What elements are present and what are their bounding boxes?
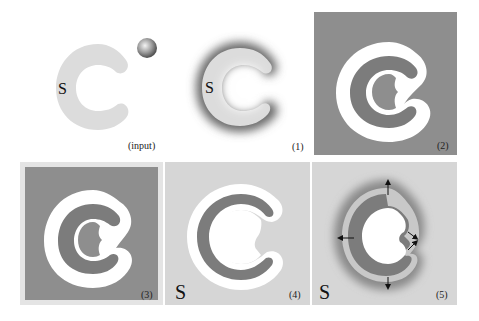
c-shape-blurred	[170, 10, 313, 155]
panel-3: (3)	[20, 162, 163, 305]
c-shape-evolving-front	[312, 162, 457, 305]
ball-icon	[137, 38, 157, 58]
c-shape-offset-band	[20, 162, 163, 305]
panel-input: S (input)	[20, 10, 165, 155]
panel-caption: (input)	[128, 140, 155, 151]
c-shape-offset-band	[314, 12, 457, 155]
c-shape-with-band	[165, 162, 310, 305]
panel-caption: (5)	[436, 289, 448, 300]
s-marker: S	[58, 80, 67, 98]
panel-caption: (1)	[292, 141, 304, 152]
s-marker: S	[205, 79, 214, 97]
s-marker: S	[319, 281, 330, 304]
panel-caption: (3)	[141, 289, 153, 300]
c-shape-input	[20, 10, 165, 155]
panel-caption: (4)	[289, 289, 301, 300]
s-marker: S	[175, 281, 186, 304]
panel-5: S (5)	[312, 162, 457, 305]
panel-caption: (2)	[437, 140, 449, 151]
panel-2: (2)	[314, 12, 457, 155]
panel-1: S (1)	[170, 10, 313, 155]
panel-4: S (4)	[165, 162, 310, 305]
